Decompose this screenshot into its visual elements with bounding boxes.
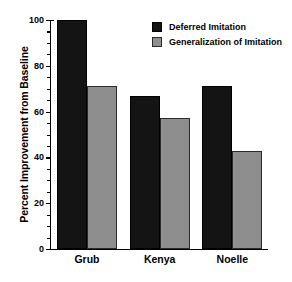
bar-noelle-series-1 — [232, 151, 262, 249]
y-tick-minor — [47, 192, 50, 193]
y-tick-major — [46, 112, 51, 113]
y-tick-label: 40 — [34, 153, 44, 162]
plot-area: 020406080100 GrubKenyaNoelle Deferred Im… — [50, 20, 268, 249]
y-tick-minor — [47, 226, 50, 227]
legend-swatch-icon — [152, 22, 162, 32]
y-axis-title: Percent Improvement from Baseline — [16, 20, 32, 249]
legend-label: Generalization of Imitation — [169, 38, 282, 47]
y-tick-major — [46, 249, 51, 250]
x-axis-line — [50, 249, 268, 250]
y-tick-label: 80 — [34, 61, 44, 70]
y-tick-major — [46, 157, 51, 158]
y-tick-minor — [47, 100, 50, 101]
bar-grub-series-1 — [87, 86, 117, 249]
bar-chart-figure: Percent Improvement from Baseline 020406… — [0, 0, 292, 282]
y-tick-label: 100 — [29, 16, 44, 25]
y-tick-major — [46, 20, 51, 21]
y-tick-minor — [47, 215, 50, 216]
x-tick-label-grub: Grub — [74, 254, 99, 265]
y-tick-minor — [47, 123, 50, 124]
y-tick-minor — [47, 146, 50, 147]
y-tick-label: 0 — [39, 245, 44, 254]
y-tick-minor — [47, 43, 50, 44]
x-tick-label-noelle: Noelle — [217, 254, 249, 265]
y-tick-major — [46, 203, 51, 204]
y-axis-line — [50, 20, 51, 249]
y-tick-major — [46, 66, 51, 67]
y-tick-minor — [47, 238, 50, 239]
y-tick-minor — [47, 169, 50, 170]
y-tick-label: 20 — [34, 199, 44, 208]
bar-kenya-series-1 — [160, 118, 190, 249]
y-tick-minor — [47, 135, 50, 136]
bar-noelle-series-0 — [202, 86, 232, 249]
legend-item-1: Generalization of Imitation — [152, 36, 282, 48]
y-axis-top-cap — [50, 20, 54, 21]
legend-item-0: Deferred Imitation — [152, 21, 282, 33]
x-tick-label-kenya: Kenya — [144, 254, 176, 265]
bar-grub-series-0 — [57, 20, 87, 249]
y-tick-minor — [47, 180, 50, 181]
bar-kenya-series-0 — [130, 96, 160, 249]
chart-legend: Deferred ImitationGeneralization of Imit… — [152, 21, 282, 48]
y-tick-label: 60 — [34, 107, 44, 116]
y-tick-minor — [47, 31, 50, 32]
y-tick-minor — [47, 54, 50, 55]
y-tick-minor — [47, 77, 50, 78]
y-tick-minor — [47, 89, 50, 90]
legend-label: Deferred Imitation — [169, 23, 246, 32]
legend-swatch-icon — [152, 37, 162, 47]
